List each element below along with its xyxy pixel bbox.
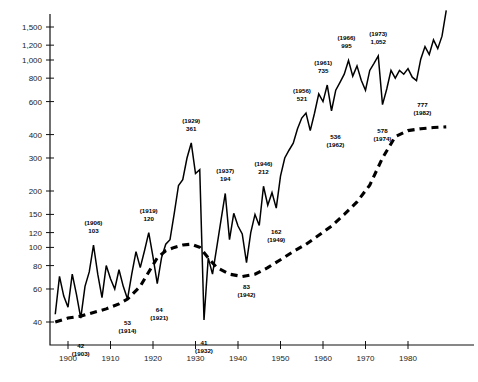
line-chart: 4060801001201502003004006008001,0001,200… [0, 0, 478, 382]
annotation-line-2: (1949) [267, 236, 285, 243]
annotation-line-2: 194 [220, 175, 231, 182]
annotation-line-2: 361 [186, 125, 197, 132]
point-annotation: (1973)1,052 [369, 30, 387, 45]
x-tick-label: 1940 [229, 354, 247, 363]
chart-axes [50, 14, 474, 345]
x-tick-label: 1960 [314, 354, 332, 363]
point-annotation: 83(1942) [238, 283, 256, 298]
y-tick-label: 40 [33, 318, 42, 327]
y-tick-label: 300 [29, 154, 43, 163]
data-point-labels: 42(1903)(1906)10353(1914)(1919)12064(192… [72, 0, 447, 357]
point-annotation: 162(1949) [267, 228, 285, 243]
annotation-line-1: (1919) [140, 207, 158, 214]
point-annotation: (1961)735 [314, 59, 332, 74]
annotation-line-1: (1973) [369, 30, 387, 37]
annotation-line-2: (1932) [195, 347, 213, 354]
x-tick-label: 1970 [357, 354, 375, 363]
annotation-line-2: (1914) [119, 327, 137, 334]
x-axis-tick-labels: 190019101920193019401950196019701980 [59, 341, 417, 363]
annotation-line-1: 41 [201, 339, 208, 346]
annotation-line-2: 735 [318, 67, 329, 74]
annotation-line-2: 1,052 [371, 38, 387, 45]
chart-container: 4060801001201502003004006008001,0001,200… [0, 0, 478, 382]
annotation-line-2: (1982) [414, 109, 432, 116]
annotation-line-2: 995 [341, 42, 352, 49]
point-annotation: (1929)361 [182, 117, 200, 132]
annotation-line-2: 212 [258, 168, 269, 175]
annotation-line-2: (1903) [72, 350, 90, 357]
point-annotation: 536(1962) [327, 133, 345, 148]
x-tick-label: 1920 [144, 354, 162, 363]
annotation-line-1: 777 [417, 101, 428, 108]
annotation-line-1: (1961) [314, 59, 332, 66]
y-tick-label: 200 [29, 187, 43, 196]
point-annotation: (1966)995 [338, 34, 356, 49]
point-annotation: (1946)212 [255, 160, 273, 175]
annotation-line-1: (1966) [338, 34, 356, 41]
y-tick-label: 80 [33, 262, 42, 271]
axis-layer [50, 14, 474, 345]
y-tick-label: 1,500 [22, 23, 43, 32]
point-annotation: 53(1914) [119, 319, 137, 334]
y-axis-tick-labels: 4060801001201502003004006008001,0001,200… [22, 23, 54, 327]
annotation-line-2: (1921) [150, 314, 168, 321]
y-tick-label: 1,000 [22, 56, 43, 65]
y-tick-label: 800 [29, 74, 43, 83]
annotation-line-2: 521 [297, 95, 308, 102]
point-annotation: 41(1932) [195, 339, 213, 354]
annotation-line-1: 83 [243, 283, 250, 290]
series-line-annual-series [55, 10, 446, 320]
y-tick-label: 60 [33, 285, 42, 294]
annotation-line-1: (1937) [216, 167, 234, 174]
annotation-line-1: 162 [271, 228, 282, 235]
point-annotation: (1956)521 [293, 87, 311, 102]
x-tick-label: 1910 [102, 354, 120, 363]
annotation-line-1: (1946) [255, 160, 273, 167]
annotation-line-1: 53 [124, 319, 131, 326]
annotation-line-1: 42 [77, 342, 84, 349]
point-annotation: 64(1921) [150, 306, 168, 321]
x-tick-label: 1980 [399, 354, 417, 363]
annotation-line-1: (1956) [293, 87, 311, 94]
x-tick-label: 1930 [187, 354, 205, 363]
point-annotation: 578(1974) [374, 127, 392, 142]
point-annotation: 42(1903) [72, 342, 90, 357]
point-annotation: 777(1982) [414, 101, 432, 116]
y-tick-label: 1,200 [22, 41, 43, 50]
annotation-line-2: (1962) [327, 141, 345, 148]
point-annotation: (1919)120 [140, 207, 158, 222]
annotation-line-1: (1929) [182, 117, 200, 124]
annotation-line-2: 103 [88, 227, 99, 234]
annotation-line-1: 64 [156, 306, 163, 313]
series-layer [55, 10, 446, 322]
annotation-line-1: (1906) [85, 219, 103, 226]
annotation-line-2: (1942) [238, 291, 256, 298]
annotation-line-2: 120 [144, 215, 155, 222]
y-tick-label: 400 [29, 131, 43, 140]
y-tick-label: 120 [29, 229, 43, 238]
x-tick-label: 1950 [272, 354, 290, 363]
y-tick-label: 150 [29, 210, 43, 219]
annotation-line-1: 578 [377, 127, 388, 134]
y-tick-label: 600 [29, 98, 43, 107]
point-annotation: (1937)194 [216, 167, 234, 182]
point-annotation: (1906)103 [85, 219, 103, 234]
annotation-line-2: (1974) [374, 135, 392, 142]
y-tick-label: 100 [29, 243, 43, 252]
annotation-line-1: 536 [330, 133, 341, 140]
